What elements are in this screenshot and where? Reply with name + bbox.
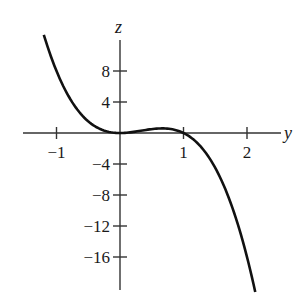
- z-axis-tick-label: 8: [102, 62, 111, 81]
- z-axis-label: z: [114, 17, 122, 37]
- z-axis-tick-label: −4: [92, 155, 111, 174]
- y-axis-tick-label: 1: [179, 143, 188, 162]
- y-axis-tick-label: −1: [47, 143, 65, 162]
- z-axis-tick-label: −12: [83, 217, 110, 236]
- z-axis-tick-label: −8: [92, 186, 110, 205]
- function-curve: [44, 35, 255, 292]
- plot-area: −112 84−4−8−12−16 y z: [0, 0, 305, 305]
- z-axis-tick-label: −16: [83, 248, 110, 267]
- z-axis-tick-label: 4: [102, 93, 111, 112]
- y-axis-tick-label: 2: [243, 143, 252, 162]
- y-axis-ticks: −112: [47, 127, 251, 162]
- y-axis-label: y: [282, 123, 292, 143]
